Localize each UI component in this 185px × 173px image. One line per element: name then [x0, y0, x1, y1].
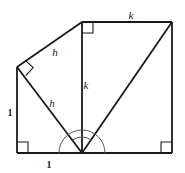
right-angle-bottom-right — [161, 142, 172, 153]
right-angle-top-middle — [82, 22, 93, 33]
geometry-figure: h h k k 1 1 — [0, 0, 185, 173]
label-one-left: 1 — [8, 108, 13, 118]
right-angle-bottom-left — [17, 142, 28, 153]
diagonal-apex-topright — [82, 22, 172, 153]
hypotenuse-h-upper — [17, 22, 82, 67]
label-k-vertical: k — [84, 80, 89, 91]
label-k-top: k — [129, 10, 134, 21]
geometry-canvas — [0, 0, 185, 173]
label-h-upper: h — [52, 47, 58, 58]
right-angle-left-vertex — [25, 60, 33, 76]
label-h-lower: h — [49, 98, 55, 109]
hypotenuse-h-lower — [17, 67, 82, 153]
label-one-bottom: 1 — [47, 160, 52, 170]
